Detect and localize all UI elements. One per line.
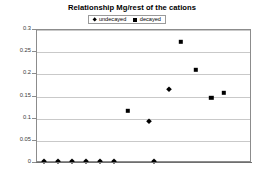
scatter-chart: Relationship Mg/rest of the cations unde… bbox=[0, 0, 264, 174]
legend-label-decayed: decayed bbox=[140, 16, 161, 23]
square-marker-icon bbox=[133, 18, 137, 22]
y-axis-label: 0.25 bbox=[0, 47, 31, 53]
legend-label-undecayed: undecayed bbox=[99, 16, 126, 23]
data-point-decayed bbox=[209, 96, 213, 100]
data-point-undecayed bbox=[146, 118, 151, 123]
chart-legend: undecayed decayed bbox=[88, 15, 166, 24]
x-axis-line bbox=[36, 162, 252, 163]
y-axis-label: 0.15 bbox=[0, 92, 31, 98]
y-axis-label: 0.3 bbox=[0, 25, 31, 31]
y-axis-line bbox=[36, 29, 37, 163]
y-axis-label: 0.1 bbox=[0, 114, 31, 120]
y-axis-label: 0.05 bbox=[0, 136, 31, 142]
gridline bbox=[37, 97, 250, 98]
plot-area bbox=[36, 29, 251, 162]
data-point-decayed bbox=[222, 91, 226, 95]
legend-item-undecayed[interactable]: undecayed bbox=[93, 16, 126, 23]
gridline bbox=[37, 74, 250, 75]
data-point-decayed bbox=[179, 40, 183, 44]
diamond-marker-icon bbox=[92, 17, 97, 22]
y-axis-tick bbox=[32, 29, 36, 30]
gridline bbox=[37, 119, 250, 120]
data-point-decayed bbox=[126, 108, 130, 112]
data-point-undecayed bbox=[167, 86, 172, 91]
y-axis-label: 0 bbox=[0, 158, 31, 164]
data-point-decayed bbox=[194, 68, 198, 72]
y-axis-tick bbox=[32, 162, 36, 163]
gridline bbox=[37, 141, 250, 142]
y-axis-tick bbox=[32, 73, 36, 74]
gridline bbox=[37, 30, 250, 31]
gridline bbox=[37, 52, 250, 53]
y-axis-label: 0.2 bbox=[0, 69, 31, 75]
y-axis-tick bbox=[32, 140, 36, 141]
y-axis-tick bbox=[32, 51, 36, 52]
y-axis-tick bbox=[32, 96, 36, 97]
y-axis-tick bbox=[32, 118, 36, 119]
legend-item-decayed[interactable]: decayed bbox=[133, 16, 161, 23]
chart-title: Relationship Mg/rest of the cations bbox=[0, 3, 264, 12]
